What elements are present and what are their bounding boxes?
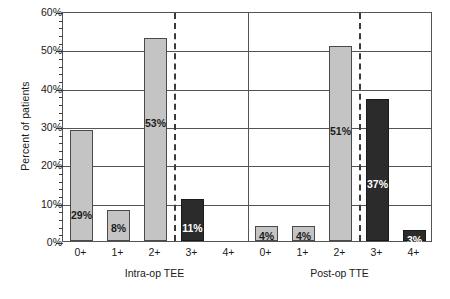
y-tick-minor: [59, 36, 63, 37]
y-tick-label: 30%: [0, 121, 62, 133]
y-tick-minor: [59, 74, 63, 75]
plot-area: 29%8%53%11%4%4%51%37%3%: [62, 12, 432, 242]
x-tick-label: 2+: [149, 246, 161, 258]
bar: 37%: [366, 99, 389, 241]
y-tick-minor: [59, 67, 63, 68]
y-tick-minor: [59, 151, 63, 152]
y-tick-minor: [59, 228, 63, 229]
x-tick-label: 1+: [297, 246, 309, 258]
y-tick-label: 40%: [0, 83, 62, 95]
bar: 4%: [292, 226, 315, 241]
group-title: Intra-op TEE: [125, 267, 184, 279]
group-title: Post-op TTE: [310, 267, 369, 279]
y-tick-label: 0%: [0, 236, 62, 248]
y-tick-minor: [59, 212, 63, 213]
bar-value-label: 29%: [71, 209, 92, 221]
x-tick-label: 3+: [371, 246, 383, 258]
x-tick-label: 0+: [75, 246, 87, 258]
bar: 29%: [70, 130, 93, 241]
bar-value-label: 3%: [404, 234, 425, 246]
bar: 3%: [403, 230, 426, 242]
x-tick-label: 4+: [223, 246, 235, 258]
x-tick-label: 0+: [260, 246, 272, 258]
bar-value-label: 8%: [108, 222, 129, 234]
y-tick-minor: [59, 189, 63, 190]
gridline: [63, 90, 431, 91]
y-tick-label: 60%: [0, 6, 62, 18]
group-divider: [248, 13, 249, 241]
bar: 53%: [144, 38, 167, 241]
y-tick-minor: [59, 182, 63, 183]
bar-value-label: 37%: [367, 178, 388, 190]
bar-value-label: 11%: [182, 222, 203, 234]
x-tick-label: 1+: [112, 246, 124, 258]
y-tick-label: 20%: [0, 159, 62, 171]
severity-threshold-divider: [359, 13, 361, 241]
y-tick-label: 10%: [0, 198, 62, 210]
bar-value-label: 53%: [145, 117, 166, 129]
y-tick-minor: [59, 220, 63, 221]
y-tick-minor: [59, 97, 63, 98]
bar-value-label: 4%: [256, 230, 277, 242]
y-tick-minor: [59, 113, 63, 114]
x-tick-label: 4+: [408, 246, 420, 258]
chart-figure: Percent of patients 29%8%53%11%4%4%51%37…: [0, 0, 450, 299]
y-tick-minor: [59, 105, 63, 106]
severity-threshold-divider: [174, 13, 176, 241]
gridline: [63, 51, 431, 52]
y-tick-label: 50%: [0, 44, 62, 56]
y-tick-minor: [59, 174, 63, 175]
bar-value-label: 4%: [293, 230, 314, 242]
bar: 51%: [329, 46, 352, 242]
y-tick-minor: [59, 21, 63, 22]
x-tick-label: 3+: [186, 246, 198, 258]
bar: 8%: [107, 210, 130, 241]
bar-value-label: 51%: [330, 125, 351, 137]
y-tick-minor: [59, 28, 63, 29]
bar: 4%: [255, 226, 278, 241]
bar: 11%: [181, 199, 204, 241]
x-tick-label: 2+: [334, 246, 346, 258]
y-tick-minor: [59, 143, 63, 144]
y-tick-minor: [59, 59, 63, 60]
y-tick-minor: [59, 136, 63, 137]
